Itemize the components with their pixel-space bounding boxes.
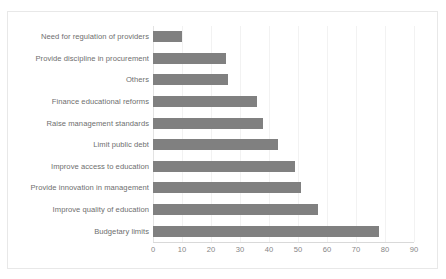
bar[interactable] xyxy=(153,53,226,64)
x-tick-label: 70 xyxy=(352,245,360,254)
category-label: Provide discipline in procurement xyxy=(16,48,149,70)
bar[interactable] xyxy=(153,139,278,150)
bar-row[interactable] xyxy=(153,112,414,134)
bar-row[interactable] xyxy=(153,220,414,242)
bar-row[interactable] xyxy=(153,134,414,156)
x-axis-tick-labels: 0102030405060708090 xyxy=(153,242,414,258)
bar-row[interactable] xyxy=(153,69,414,91)
category-label: Improve quality of education xyxy=(16,199,149,221)
x-tick-label: 0 xyxy=(151,245,155,254)
category-label: Improve access to education xyxy=(16,156,149,178)
bar-row[interactable] xyxy=(153,177,414,199)
plot-area xyxy=(153,26,414,242)
bar[interactable] xyxy=(153,161,295,172)
x-tick-label: 50 xyxy=(294,245,302,254)
bar-row[interactable] xyxy=(153,26,414,48)
x-tick-label: 80 xyxy=(381,245,389,254)
x-tick-label: 90 xyxy=(410,245,418,254)
bar[interactable] xyxy=(153,204,318,215)
bar[interactable] xyxy=(153,96,257,107)
category-label: Finance educational reforms xyxy=(16,91,149,113)
category-label: Others xyxy=(16,69,149,91)
x-tick-label: 30 xyxy=(236,245,244,254)
category-label: Need for regulation of providers xyxy=(16,26,149,48)
bar-row[interactable] xyxy=(153,48,414,70)
chart-container: Need for regulation of providers Provide… xyxy=(7,11,438,269)
bar-series xyxy=(153,26,414,242)
bar[interactable] xyxy=(153,74,228,85)
x-tick-label: 40 xyxy=(265,245,273,254)
category-label: Raise management standards xyxy=(16,112,149,134)
x-tick-label: 10 xyxy=(178,245,186,254)
category-label: Provide innovation in management xyxy=(16,177,149,199)
bar-row[interactable] xyxy=(153,91,414,113)
bar[interactable] xyxy=(153,226,379,237)
bar-row[interactable] xyxy=(153,156,414,178)
bar[interactable] xyxy=(153,118,263,129)
category-label: Budgetary limits xyxy=(16,220,149,242)
gridline xyxy=(414,26,415,242)
category-axis-labels: Need for regulation of providers Provide… xyxy=(16,26,149,242)
x-tick-label: 60 xyxy=(323,245,331,254)
bar-row[interactable] xyxy=(153,199,414,221)
x-tick-label: 20 xyxy=(207,245,215,254)
bar[interactable] xyxy=(153,182,301,193)
bar[interactable] xyxy=(153,31,182,42)
category-label: Limit public debt xyxy=(16,134,149,156)
